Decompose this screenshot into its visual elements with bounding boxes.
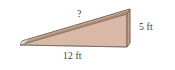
wedge-diagram (0, 0, 175, 70)
wedge-figure: ? 5 ft 12 ft (0, 0, 175, 70)
hypotenuse-length-label: ? (77, 9, 82, 19)
height-dimension-label: 5 ft (139, 23, 153, 33)
wedge-front-face (20, 14, 127, 47)
base-dimension-label: 12 ft (63, 52, 82, 62)
